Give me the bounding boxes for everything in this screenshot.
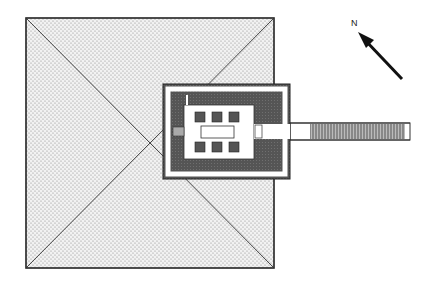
north-label: N <box>351 18 358 28</box>
north-arrow-icon <box>358 32 402 79</box>
pyramid-plan <box>0 0 432 288</box>
temple-enclosure <box>163 84 290 179</box>
causeway <box>290 123 410 140</box>
